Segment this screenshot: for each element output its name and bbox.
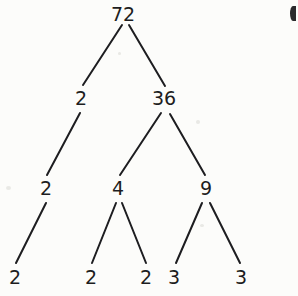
tree-node-n2c: 2 bbox=[9, 268, 21, 287]
tree-node-n2a: 2 bbox=[75, 89, 87, 108]
tree-edge-n36-to-n4 bbox=[120, 113, 161, 175]
paper-speck bbox=[118, 52, 121, 55]
factor-tree-diagram: 7223624922233 bbox=[0, 0, 298, 296]
tree-edges-layer bbox=[0, 0, 298, 296]
tree-node-n9: 9 bbox=[200, 179, 212, 198]
paper-speck bbox=[6, 186, 11, 190]
tree-node-n36: 36 bbox=[152, 89, 176, 108]
tree-node-n2d: 2 bbox=[85, 268, 97, 287]
tree-edge-n2a-to-n2b bbox=[47, 113, 80, 175]
tree-edge-n72-to-n36 bbox=[129, 25, 165, 86]
paper-speck bbox=[196, 120, 200, 124]
page-edge-mark-icon bbox=[290, 6, 296, 21]
tree-node-n72: 72 bbox=[111, 5, 135, 24]
tree-edge-n4-to-n2e bbox=[122, 203, 146, 263]
tree-node-n2e: 2 bbox=[140, 268, 152, 287]
tree-edge-n36-to-n9 bbox=[170, 114, 205, 175]
tree-node-n2b: 2 bbox=[40, 179, 52, 198]
tree-node-n3b: 3 bbox=[235, 268, 247, 287]
tree-node-n3a: 3 bbox=[168, 268, 180, 287]
tree-node-n4: 4 bbox=[112, 179, 124, 198]
tree-edge-n9-to-n3b bbox=[210, 203, 240, 263]
tree-edge-n9-to-n3a bbox=[176, 203, 202, 263]
tree-edge-n72-to-n2a bbox=[83, 25, 122, 85]
tree-edge-n2b-to-n2c bbox=[16, 203, 46, 263]
tree-edge-n4-to-n2d bbox=[92, 203, 116, 263]
paper-speck bbox=[200, 224, 204, 227]
